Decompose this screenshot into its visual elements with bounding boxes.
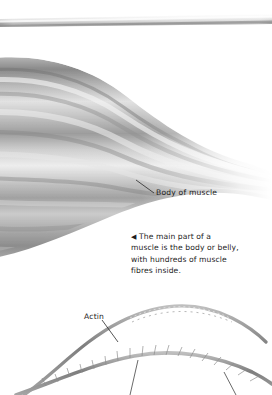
caption-line-2: muscle is the body or belly, bbox=[131, 242, 271, 253]
figure-artwork bbox=[0, 0, 272, 395]
caption-triangle-icon: ◀ bbox=[131, 234, 136, 241]
myosin-heads bbox=[42, 345, 259, 386]
leader-line-myosin-right bbox=[224, 372, 236, 395]
tendon-rod-group bbox=[0, 14, 272, 27]
actin-strand bbox=[24, 306, 266, 395]
caption-block: ◀The main part of a muscle is the body o… bbox=[131, 231, 271, 277]
caption-line-4: fibres inside. bbox=[131, 265, 271, 276]
filament-diagram bbox=[16, 306, 272, 395]
leader-line-myosin-left bbox=[130, 360, 138, 395]
illustration-page: Body of muscle Actin ◀The main part of a… bbox=[0, 0, 272, 395]
caption-line-3: with hundreds of muscle bbox=[131, 254, 271, 265]
myosin-strand bbox=[16, 353, 272, 395]
caption-line-1: ◀The main part of a bbox=[131, 231, 271, 242]
caption-line-1-text: The main part of a bbox=[139, 232, 211, 241]
label-body-of-muscle: Body of muscle bbox=[156, 188, 217, 197]
actin-beads bbox=[130, 307, 232, 322]
label-actin: Actin bbox=[84, 312, 104, 321]
